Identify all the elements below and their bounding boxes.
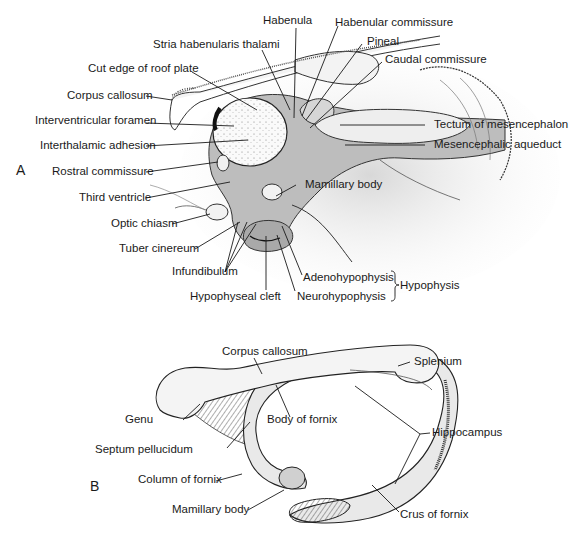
panel-label-b: B xyxy=(90,478,99,494)
label-corpus-callosum-a: Corpus callosum xyxy=(67,89,153,102)
label-column-of-fornix: Column of fornix xyxy=(138,473,222,486)
label-mamillary-body-a: Mamillary body xyxy=(305,178,382,191)
diagram-drawing xyxy=(0,0,570,545)
label-stria-habenularis-thalami: Stria habenularis thalami xyxy=(153,38,280,51)
label-mesencephalic-aqueduct: Mesencephalic aqueduct xyxy=(434,138,561,151)
label-pineal: Pineal xyxy=(367,35,399,48)
label-tectum-of-mesencephalon: Tectum of mesencephalon xyxy=(434,118,568,131)
panel-a-drawing xyxy=(150,36,560,295)
panel-b-drawing xyxy=(156,345,458,523)
label-caudal-commissure: Caudal commissure xyxy=(385,53,487,66)
label-interthalamic-adhesion: Interthalamic adhesion xyxy=(40,139,156,152)
label-mamillary-body-b: Mamillary body xyxy=(172,503,249,516)
label-body-of-fornix: Body of fornix xyxy=(267,413,337,426)
label-crus-of-fornix: Crus of fornix xyxy=(400,508,468,521)
label-hypophysis: Hypophysis xyxy=(400,279,459,292)
label-habenula: Habenula xyxy=(263,14,312,27)
label-interventricular-foramen: Interventricular foramen xyxy=(35,114,156,127)
label-corpus-callosum-b: Corpus callosum xyxy=(222,345,308,358)
label-third-ventricle: Third ventricle xyxy=(79,191,151,204)
label-splenium: Splenium xyxy=(414,355,462,368)
label-tuber-cinereum: Tuber cinereum xyxy=(119,242,199,255)
label-septum-pellucidum: Septum pellucidum xyxy=(95,443,193,456)
label-adenohypophysis: Adenohypophysis xyxy=(303,271,394,284)
panel-label-a: A xyxy=(16,162,25,178)
label-genu: Genu xyxy=(125,413,153,426)
label-rostral-commissure: Rostral commissure xyxy=(52,165,154,178)
label-habenular-commissure: Habenular commissure xyxy=(335,16,453,29)
label-hippocampus: Hippocampus xyxy=(432,426,502,439)
label-infundibulum: Infundibulum xyxy=(172,265,238,278)
anatomy-figure: A B Habenula Habenular commissure Stria … xyxy=(0,0,570,545)
label-optic-chiasm: Optic chiasm xyxy=(111,217,177,230)
label-neurohypophysis: Neurohypophysis xyxy=(297,290,386,303)
label-cut-edge-of-roof-plate: Cut edge of roof plate xyxy=(88,62,199,75)
label-hypophyseal-cleft: Hypophyseal cleft xyxy=(190,290,281,303)
